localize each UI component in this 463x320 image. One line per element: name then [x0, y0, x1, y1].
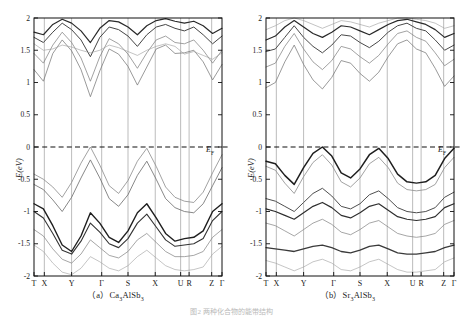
y-tick-label: 2	[258, 14, 262, 23]
y-tick-label: -2	[24, 272, 31, 281]
panel-caption-b: （b）Sr3AlSb3	[232, 288, 463, 302]
panel-caption-a: （a）Ca3AlSb3	[0, 288, 231, 302]
x-tick-label-T: T	[32, 279, 37, 288]
x-tick-label-X: X	[152, 279, 158, 288]
y-tick-label: 0	[26, 143, 30, 152]
y-tick-label: 0	[258, 143, 262, 152]
panel-caption-formula-b: Sr3AlSb3	[343, 290, 376, 300]
x-tick-label-T: T	[264, 279, 269, 288]
x-tick-label-X: X	[41, 279, 47, 288]
x-tick-label-S: S	[126, 279, 130, 288]
panel-caption-prefix-b: （b）	[320, 290, 343, 300]
band-structure-figure: -2-1.5-1-0.500.511.52TXYΓSXURZΓ E(eV) EF…	[0, 0, 463, 320]
y-axis-title-b: E(eV)	[246, 158, 256, 178]
y-axis-title-a: E(eV)	[14, 158, 24, 178]
x-tick-label-Γ: Γ	[220, 279, 225, 288]
y-tick-label: 1	[26, 78, 30, 87]
plot-a: -2-1.5-1-0.500.511.52TXYΓSXURZΓ	[0, 0, 231, 300]
x-tick-label-Y: Y	[69, 279, 75, 288]
x-tick-label-Z: Z	[209, 279, 214, 288]
fermi-level-label-a: EF	[206, 145, 214, 156]
band-plot-svg-b: -2-1.5-1-0.500.511.52TXYΓSXURZΓ	[232, 0, 463, 300]
y-tick-label: -1	[24, 207, 31, 216]
x-tick-label-R: R	[186, 279, 192, 288]
x-tick-label-S: S	[358, 279, 362, 288]
y-tick-label: -2	[256, 272, 263, 281]
x-tick-label-X: X	[273, 279, 279, 288]
y-tick-label: 2	[26, 14, 30, 23]
x-tick-label-Z: Z	[441, 279, 446, 288]
y-tick-label: 0.5	[21, 110, 31, 119]
plot-b: -2-1.5-1-0.500.511.52TXYΓSXURZΓ	[232, 0, 463, 300]
y-tick-label: 1.5	[253, 46, 263, 55]
band-plot-svg-a: -2-1.5-1-0.500.511.52TXYΓSXURZΓ	[0, 0, 231, 300]
y-tick-label: -1.5	[18, 239, 30, 248]
panel-caption-formula-a: Ca3AlSb3	[109, 290, 144, 300]
panel-a: -2-1.5-1-0.500.511.52TXYΓSXURZΓ E(eV) EF…	[0, 0, 231, 320]
panel-caption-prefix-a: （a）	[87, 290, 109, 300]
y-tick-label: -1	[256, 207, 263, 216]
fermi-level-label-b: EF	[438, 145, 446, 156]
y-tick-label: 1.5	[21, 46, 31, 55]
x-tick-label-U: U	[178, 279, 184, 288]
figure-bottom-caption: 图2 两种化合物的能带结构	[0, 306, 463, 318]
x-tick-label-Γ: Γ	[331, 279, 336, 288]
x-tick-label-Y: Y	[301, 279, 307, 288]
panel-b: -2-1.5-1-0.500.511.52TXYΓSXURZΓ E(eV) EF…	[232, 0, 463, 320]
y-tick-label: -1.5	[250, 239, 262, 248]
y-tick-label: 1	[258, 78, 262, 87]
x-tick-label-X: X	[384, 279, 390, 288]
y-tick-label: 0.5	[253, 110, 263, 119]
x-tick-label-R: R	[418, 279, 424, 288]
x-tick-label-U: U	[410, 279, 416, 288]
x-tick-label-Γ: Γ	[452, 279, 457, 288]
x-tick-label-Γ: Γ	[99, 279, 104, 288]
